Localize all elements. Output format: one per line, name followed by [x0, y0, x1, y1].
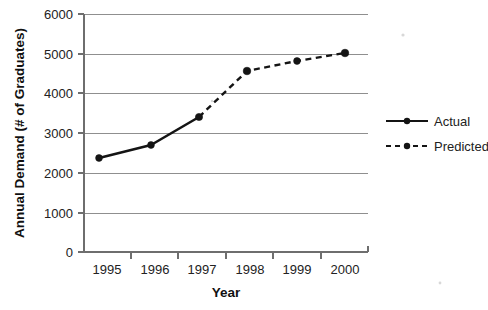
legend-label-predicted: Predicted: [434, 139, 488, 154]
x-tick-label-1996: 1996: [141, 262, 170, 277]
data-point-predicted-2000: [341, 49, 349, 57]
legend-label-actual: Actual: [434, 114, 470, 129]
x-tick-label-1995: 1995: [93, 262, 122, 277]
y-tick-label-0: 0: [66, 245, 73, 260]
y-tick-label-2000: 2000: [44, 166, 73, 181]
y-tick-label-5000: 5000: [44, 47, 73, 62]
x-tick-label-1999: 1999: [283, 262, 312, 277]
data-point-actual-1996: [148, 142, 155, 149]
legend-swatch-actual-marker: [404, 118, 410, 124]
x-tick-marks: [131, 252, 321, 259]
data-point-predicted-1998: [243, 67, 251, 75]
data-point-actual-1997: [195, 113, 202, 120]
y-axis-title: Annual Demand (# of Graduates): [12, 28, 27, 238]
chart-figure: 6000 5000 4000 3000 2000 1000 0 1995 199…: [0, 0, 488, 310]
scan-speck-1: [401, 33, 404, 36]
x-tick-label-1997: 1997: [188, 262, 217, 277]
x-tick-label-1998: 1998: [236, 262, 265, 277]
legend-entry-predicted[interactable]: Predicted: [386, 139, 488, 154]
scan-speck-2: [439, 282, 442, 285]
scan-speck-3: [211, 100, 213, 102]
y-tick-label-1000: 1000: [44, 206, 73, 221]
line-chart: 6000 5000 4000 3000 2000 1000 0 1995 199…: [0, 0, 488, 310]
data-point-actual-1995: [96, 155, 103, 162]
x-tick-label-2000: 2000: [331, 262, 360, 277]
y-tick-labels: 6000 5000 4000 3000 2000 1000 0: [44, 7, 73, 260]
y-tick-label-3000: 3000: [44, 126, 73, 141]
data-point-predicted-1999: [294, 58, 301, 65]
chart-legend: Actual Predicted: [386, 114, 488, 154]
x-tick-labels: 1995 1996 1997 1998 1999 2000: [93, 262, 360, 277]
y-tick-label-6000: 6000: [44, 7, 73, 22]
legend-entry-actual[interactable]: Actual: [386, 114, 470, 129]
legend-swatch-predicted-marker: [404, 143, 410, 149]
x-axis-title: Year: [212, 285, 241, 300]
y-tick-marks: [78, 14, 84, 252]
y-tick-label-4000: 4000: [44, 86, 73, 101]
